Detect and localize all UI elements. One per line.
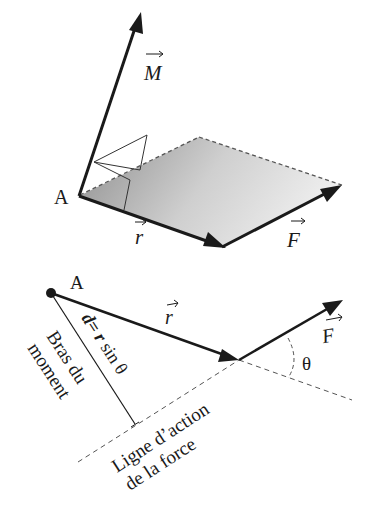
f-vector-label-bottom: F [319,323,337,347]
m-vector-overarrow [146,51,163,57]
top-3d-diagram: A M r F [54,12,342,252]
r-f-plane [79,137,342,247]
m-arrowhead [129,12,143,34]
m-vector [79,22,137,196]
f-vector-overarrow-bottom [326,314,342,321]
m-vector-label: M [143,61,163,85]
bottom-2d-diagram: A r F θ d=r sin θ Bras du moment Ligne d… [24,272,352,494]
r-vector-2d [51,293,230,357]
f-vector-2d [239,305,334,360]
torque-diagram: A M r F A r F θ d=r sin θ [0,0,374,514]
r-extension-dashed [239,360,352,400]
r-arrowhead-2d [218,349,239,362]
theta-angle-label: θ [302,353,311,374]
f-vector-label-top: F [286,228,300,252]
theta-angle-arc [288,338,294,378]
right-angle-marker [94,135,147,170]
formula-sin-theta: sin θ [94,335,132,378]
f-vector-overarrow-top [291,218,305,224]
point-a-label-top: A [54,186,69,208]
point-a-label-bottom: A [70,272,84,293]
f-arrowhead-2d [322,300,343,316]
r-vector-label-bottom: r [165,306,173,328]
r-vector-label-top: r [135,225,144,249]
